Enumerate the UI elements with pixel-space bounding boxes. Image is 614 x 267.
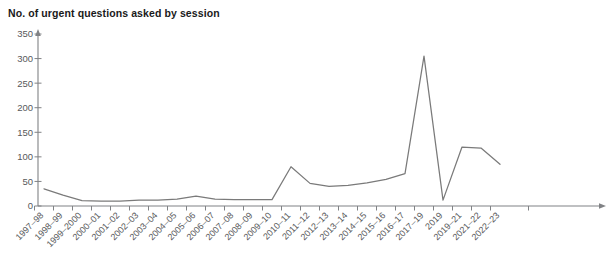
y-axis-tick-label: 150: [17, 127, 33, 138]
y-axis-tick-label: 200: [17, 102, 33, 113]
line-chart-plot: 050100150200250300350 1997–981998–991999…: [0, 0, 614, 267]
y-axis-tick-label: 250: [17, 78, 33, 89]
y-axis-tick-label: 300: [17, 53, 33, 64]
y-axis-tick-label: 100: [17, 151, 33, 162]
x-axis-tick-labels: 1997–981998–991999–20002000–012001–02200…: [14, 210, 502, 249]
y-axis-tick-label: 0: [28, 200, 33, 211]
y-axis-tick-label: 350: [17, 28, 33, 39]
x-axis-arrowhead: [599, 203, 606, 209]
data-series-line: [44, 56, 500, 201]
y-axis-tick-label: 50: [22, 176, 33, 187]
y-axis-tick-labels: 050100150200250300350: [17, 28, 33, 211]
y-axis-arrowhead: [35, 29, 41, 36]
x-axis-tick-marks: [35, 206, 529, 211]
chart-container: No. of urgent questions asked by session…: [0, 0, 614, 267]
